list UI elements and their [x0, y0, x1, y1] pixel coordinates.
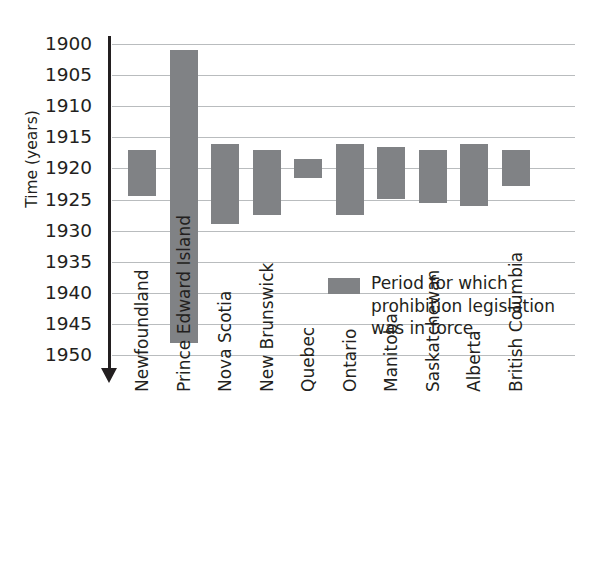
y-tick-label: 1925: [34, 191, 92, 210]
y-tick-label: 1915: [34, 128, 92, 147]
x-category-label: Nova Scotia: [213, 166, 237, 396]
y-axis-arrow-icon: [101, 368, 117, 383]
y-tick-label: 1910: [34, 97, 92, 116]
y-tick-label: 1930: [34, 222, 92, 241]
x-category-label: New Brunswick: [255, 166, 279, 396]
y-tick-label: 1945: [34, 315, 92, 334]
x-category-label: Saskatchewan: [421, 166, 445, 396]
y-tick-label: 1935: [34, 253, 92, 272]
x-category-label: Alberta: [462, 166, 486, 396]
x-category-label: Manitoba: [379, 166, 403, 396]
y-tick-label: 1920: [34, 159, 92, 178]
y-tick-label: 1905: [34, 66, 92, 85]
gridline: [112, 44, 575, 45]
x-category-label: Ontario: [338, 166, 362, 396]
x-category-label: Newfoundland: [130, 166, 154, 396]
x-category-label: Prince Edward Island: [172, 166, 196, 396]
prohibition-legislation-chart: Time (years) 190019051910191519201925193…: [0, 0, 593, 581]
y-tick-label: 1950: [34, 346, 92, 365]
x-category-label: British Columbia: [504, 166, 528, 396]
y-axis-spine: [108, 36, 111, 373]
y-tick-label: 1900: [34, 35, 92, 54]
y-tick-label: 1940: [34, 284, 92, 303]
x-category-label: Quebec: [296, 166, 320, 396]
y-axis-tick-labels: 1900190519101915192019251930193519401945…: [34, 0, 92, 581]
